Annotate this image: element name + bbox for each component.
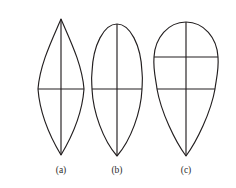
figure-root: (a) (b) (c) (0, 0, 236, 188)
leaf-shapes-figure (0, 0, 236, 188)
figure-background (0, 0, 236, 188)
